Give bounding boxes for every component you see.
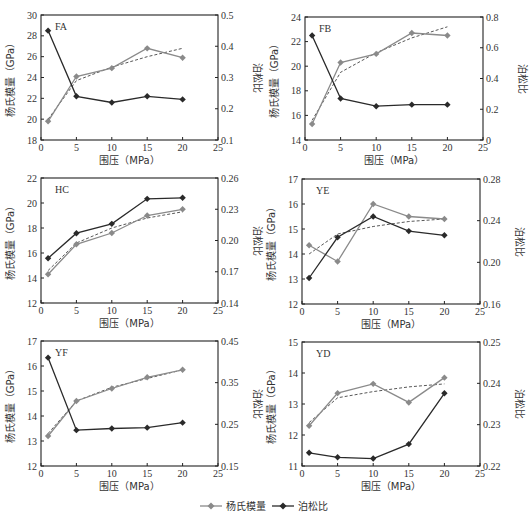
x-tick-label: 5	[74, 305, 79, 316]
panel-label: YE	[316, 185, 329, 196]
plot-frame	[41, 15, 218, 140]
diamond-marker-icon	[334, 454, 340, 460]
panel-fa: 0510152025182022242628300.10.20.30.40.5围…	[4, 10, 264, 167]
series-youngs-modulus	[309, 30, 451, 127]
y-right-tick-label: 0.4	[221, 41, 234, 52]
y-left-tick-label: 12	[288, 430, 298, 441]
x-tick-label: 20	[439, 468, 449, 479]
diamond-marker-icon	[334, 258, 340, 264]
y-left-tick-label: 20	[291, 61, 301, 72]
diamond-marker-icon	[109, 65, 115, 71]
y-right-tick-label: 0.6	[486, 42, 499, 53]
diamond-marker-icon	[309, 32, 315, 38]
series-line	[48, 48, 183, 121]
y-left-axis-title: 杨氏模量（GPa）	[268, 39, 280, 118]
diamond-marker-icon	[179, 96, 185, 102]
y-left-tick-label: 22	[27, 173, 37, 184]
y-right-tick-label: 0.45	[221, 336, 239, 347]
y-left-tick-label: 17	[27, 336, 37, 347]
y-left-tick-label: 15	[27, 386, 37, 397]
y-left-tick-label: 14	[288, 249, 298, 260]
y-right-tick-label: 0.35	[221, 377, 239, 388]
diamond-marker-icon	[179, 55, 185, 61]
diamond-marker-icon	[45, 354, 51, 360]
diamond-marker-icon	[337, 59, 343, 65]
diamond-marker-icon	[370, 213, 376, 219]
y-left-tick-label: 16	[288, 199, 298, 210]
x-tick-label: 10	[368, 468, 378, 479]
chart-panels: 0510152025182022242628300.10.20.30.40.5围…	[4, 10, 529, 493]
x-tick-label: 15	[407, 142, 417, 153]
x-tick-label: 0	[300, 306, 305, 317]
diamond-marker-icon	[144, 93, 150, 99]
x-axis-title: 围压（MPa）	[99, 318, 159, 329]
diamond-marker-icon	[109, 230, 115, 236]
x-tick-label: 15	[404, 468, 414, 479]
y-left-tick-label: 16	[291, 110, 301, 121]
y-left-tick-label: 24	[291, 12, 301, 23]
y-right-tick-label: 0.5	[221, 10, 234, 21]
y-left-axis-title: 杨氏模量（GPa）	[265, 202, 277, 281]
y-right-tick-label: 0.20	[483, 257, 501, 268]
diamond-marker-icon	[144, 45, 150, 51]
x-tick-label: 20	[442, 142, 452, 153]
x-tick-label: 15	[142, 305, 152, 316]
panel-label: FA	[55, 21, 68, 32]
plot-frame	[41, 341, 218, 466]
x-tick-label: 20	[178, 142, 188, 153]
y-left-tick-label: 12	[288, 299, 298, 310]
diamond-marker-icon	[444, 101, 450, 107]
y-left-axis-title: 杨氏模量（GPa）	[4, 38, 16, 117]
diamond-marker-icon	[179, 206, 185, 212]
y-right-axis-title: 泊松比	[252, 63, 264, 93]
series-poisson-ratio	[45, 195, 186, 262]
series-line	[309, 217, 444, 279]
y-right-tick-label: 0.20	[221, 235, 239, 246]
diamond-marker-icon	[441, 216, 447, 222]
y-left-tick-label: 26	[27, 51, 37, 62]
series-line	[48, 198, 183, 258]
y-left-tick-label: 12	[27, 298, 37, 309]
series-poisson-ratio	[306, 390, 448, 462]
x-axis-title: 围压（MPa）	[364, 155, 424, 166]
x-tick-label: 10	[107, 468, 117, 479]
diamond-marker-icon	[144, 424, 150, 430]
panel-hc: 05101520251214161820220.140.170.200.230.…	[4, 173, 264, 330]
diamond-marker-icon	[409, 101, 415, 107]
x-axis-title: 围压（MPa）	[361, 481, 421, 492]
series-youngs-modulus	[45, 45, 186, 124]
y-right-tick-label: 0.23	[221, 204, 239, 215]
x-tick-label: 0	[39, 468, 44, 479]
y-right-axis-title: 泊松比	[514, 227, 526, 257]
panel-label: FB	[319, 23, 332, 34]
diamond-marker-icon	[370, 381, 376, 387]
y-left-tick-label: 30	[27, 10, 37, 21]
diamond-marker-icon	[373, 103, 379, 109]
diamond-marker-icon	[280, 503, 287, 510]
x-tick-label: 10	[107, 142, 117, 153]
y-left-tick-label: 18	[291, 85, 301, 96]
diamond-marker-icon	[109, 99, 115, 105]
y-right-tick-label: 0.2	[486, 104, 499, 115]
series-line	[312, 36, 447, 107]
series-line	[48, 358, 183, 431]
y-right-axis-title: 泊松比	[252, 389, 264, 419]
diamond-marker-icon	[109, 425, 115, 431]
y-left-tick-label: 14	[291, 135, 301, 146]
x-tick-label: 20	[178, 468, 188, 479]
diamond-marker-icon	[373, 51, 379, 57]
x-tick-label: 20	[439, 306, 449, 317]
series-line	[48, 209, 183, 274]
y-left-tick-label: 22	[291, 36, 301, 47]
diamond-marker-icon	[306, 242, 312, 248]
y-left-tick-label: 17	[288, 174, 298, 185]
y-right-tick-label: 0.3	[221, 72, 234, 83]
panel-label: YF	[55, 347, 68, 358]
diamond-marker-icon	[208, 503, 215, 510]
diamond-marker-icon	[370, 455, 376, 461]
y-left-tick-label: 14	[27, 273, 37, 284]
y-right-tick-label: 0.24	[483, 378, 501, 389]
y-left-tick-label: 20	[27, 114, 37, 125]
diamond-marker-icon	[73, 73, 79, 79]
y-left-tick-label: 13	[27, 436, 37, 447]
